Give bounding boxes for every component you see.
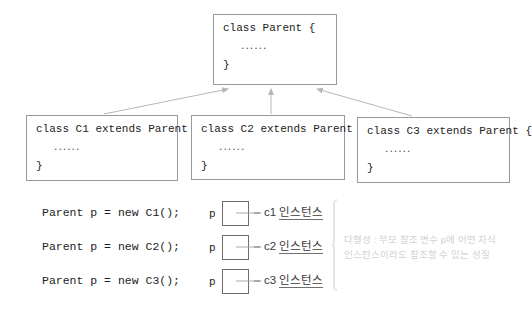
code-statement: Parent p = new C1(); (42, 206, 180, 220)
instance-name: c2 (264, 240, 279, 252)
instance-label: c3 인스턴스 (264, 273, 323, 287)
class-box-c2: class C2 extends Parent { ...... } (191, 115, 345, 180)
instance-word: 인스턴스 (279, 206, 323, 220)
class-closing-brace: } (367, 162, 500, 175)
grouping-brace (331, 199, 339, 291)
class-signature: class C2 extends Parent { (201, 123, 335, 136)
instance-label: c1 인스턴스 (264, 205, 323, 219)
reference-pointer-arrow (236, 246, 262, 248)
reference-variable-label: p (209, 242, 216, 254)
reference-variable-label: p (209, 208, 216, 220)
class-body-ellipsis: ...... (367, 144, 500, 157)
code-statement: Parent p = new C2(); (42, 240, 180, 254)
class-box-parent: class Parent { ...... } (213, 14, 337, 85)
class-signature: class C3 extends Parent { (367, 125, 500, 138)
instance-label: c2 인스턴스 (264, 239, 323, 253)
annotation-line-2: 인스턴스이라도 참조할 수 있는 성질 (344, 247, 524, 262)
reference-variable-label: p (209, 276, 216, 288)
class-signature: class C1 extends Parent { (36, 123, 168, 136)
class-body-ellipsis: ...... (201, 142, 335, 155)
polymorphism-annotation: 다형성 : 부모 참조 변수 p에 어떤 자식 인스턴스이라도 참조할 수 있는… (344, 232, 524, 262)
class-body-ellipsis: ...... (36, 142, 168, 155)
instance-name: c1 (264, 206, 279, 218)
class-closing-brace: } (223, 59, 327, 72)
class-box-c3: class C3 extends Parent { ...... } (357, 117, 510, 183)
annotation-line-1: 다형성 : 부모 참조 변수 p에 어떤 자식 (344, 232, 524, 247)
class-box-c1: class C1 extends Parent { ...... } (26, 115, 178, 181)
class-closing-brace: } (36, 160, 168, 173)
class-signature: class Parent { (223, 22, 327, 35)
class-body-ellipsis: ...... (223, 41, 327, 54)
code-statement: Parent p = new C3(); (42, 274, 180, 288)
class-closing-brace: } (201, 160, 335, 173)
instance-name: c3 (264, 274, 279, 286)
instance-word: 인스턴스 (279, 240, 323, 254)
reference-pointer-arrow (236, 212, 262, 214)
instance-word: 인스턴스 (279, 274, 323, 288)
arrow-c1-to-parent (104, 89, 228, 114)
reference-pointer-arrow (236, 280, 262, 282)
inheritance-diagram: class Parent { ...... } class C1 extends… (0, 0, 532, 312)
arrow-c3-to-parent (317, 89, 412, 116)
